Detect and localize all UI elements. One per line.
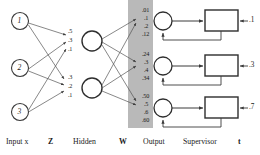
output-3-weight-1: .50 — [142, 93, 149, 99]
axis-label-z: Z — [48, 138, 53, 146]
hidden-2-weight-1: .3 — [68, 74, 72, 80]
output-3-weight-2: .5 — [144, 101, 148, 107]
output-node-1 — [154, 12, 172, 30]
axis-label-input: Input x — [6, 138, 28, 146]
hidden-node-1 — [82, 31, 102, 51]
axis-label-hidden: Hidden — [73, 138, 96, 146]
axis-label-w: W — [119, 138, 127, 146]
axis-label-output: Output — [143, 138, 165, 146]
target-value-1: .1 — [249, 17, 254, 24]
output-1-weight-3: .2 — [144, 23, 148, 29]
input-node-2-label: 2 — [18, 64, 22, 72]
hidden-1-weight-1: .5 — [68, 28, 72, 34]
target-arrows — [240, 21, 248, 108]
input-node-3-label: 3 — [18, 108, 22, 116]
output-3-weight-3: .6 — [144, 109, 148, 115]
output-3-weight-4: .60 — [142, 117, 149, 123]
output-2-weight-4: .34 — [142, 75, 149, 81]
hidden-1-weight-2: .3 — [68, 37, 72, 43]
output-2-weight-2: .3 — [144, 59, 148, 65]
supervisor-box-2 — [205, 55, 238, 76]
target-value-2: .3 — [249, 62, 254, 69]
supervisor-box-1 — [205, 10, 238, 31]
axis-label-supervisor: Supervisor — [183, 138, 217, 146]
output-1-weight-1: .01 — [142, 7, 149, 13]
output-node-3 — [154, 99, 172, 117]
input-node-1-label: 1 — [18, 17, 22, 25]
output-2-weight-3: .4 — [144, 67, 148, 73]
hidden-node-2 — [82, 78, 102, 98]
output-node-2 — [154, 57, 172, 75]
output-weight-band — [128, 0, 153, 128]
network-graphics — [0, 0, 260, 155]
hidden-2-weight-3: .1 — [68, 92, 72, 98]
output-1-weight-2: .1 — [144, 15, 148, 21]
supervisor-box-3 — [205, 97, 238, 118]
output-1-weight-4: .12 — [142, 31, 149, 37]
hidden-2-weight-2: .2 — [68, 83, 72, 89]
input-hidden-edges — [29, 23, 67, 112]
output-2-weight-1: .24 — [142, 51, 149, 57]
output-supervisor-arrows — [172, 21, 203, 108]
target-value-3: .7 — [249, 104, 254, 111]
hidden-1-weight-3: .1 — [68, 46, 72, 52]
axis-label-t: t — [238, 138, 241, 146]
diagram-canvas: 1 2 3 .5 .3 .1 .3 .2 .1 .01 .1 .2 .12 .2… — [0, 0, 260, 155]
